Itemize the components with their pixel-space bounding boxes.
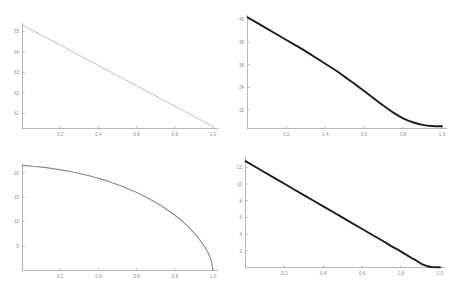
- x-tick-label: 0.8: [400, 132, 407, 137]
- y-tick-label: 10: [237, 182, 243, 187]
- y-ticks-bottom-right: 2 4 6 8 10 12: [237, 165, 248, 254]
- x-tick-label: 0.6: [133, 132, 140, 137]
- x-tick-label: 0.4: [95, 132, 102, 137]
- y-tick-label: 8: [239, 199, 242, 204]
- y-tick-label: 61: [14, 111, 20, 116]
- y-tick-label: 40: [239, 17, 245, 22]
- y-tick-label: 12: [237, 165, 243, 170]
- axes-bottom-right: [245, 157, 445, 268]
- axes-bottom-left: [22, 163, 218, 271]
- y-tick-label: 6: [239, 215, 242, 220]
- y-tick-label: 10: [14, 219, 20, 224]
- x-tick-label: 0.2: [57, 132, 64, 137]
- plot-svg-bottom-right: 0.2 0.4 0.6 0.8 1.0 2 4 6 8 10 12: [227, 145, 453, 289]
- y-ticks-top-right: 32 34 36 38 40: [239, 17, 250, 112]
- x-tick-label: 0.6: [133, 274, 140, 279]
- x-ticks-bottom-right: 0.2 0.4 0.6 0.8 1.0: [281, 265, 443, 276]
- x-tick-label: 0.4: [95, 274, 102, 279]
- x-tick-label: 0.8: [172, 132, 179, 137]
- plot-svg-top-right: 0.2 0.4 0.6 0.8 1.0 32 34 36 38 40: [227, 0, 453, 145]
- chart-panel-top-right: 0.2 0.4 0.6 0.8 1.0 32 34 36 38 40: [227, 0, 453, 145]
- y-tick-label: 5: [16, 244, 19, 249]
- x-tick-label: 1.0: [210, 132, 217, 137]
- x-tick-label: 0.8: [398, 271, 405, 276]
- x-ticks-top-left: 0.2 0.4 0.6 0.8 1.0: [57, 126, 217, 137]
- chart-panel-top-left: 0.2 0.4 0.6 0.8 1.0 61 62 63 64 65: [0, 0, 227, 145]
- plot-svg-top-left: 0.2 0.4 0.6 0.8 1.0 61 62 63 64 65: [0, 0, 227, 145]
- y-ticks-bottom-left: 5 10 15 20: [14, 171, 25, 249]
- y-tick-label: 36: [239, 63, 245, 68]
- y-tick-label: 65: [14, 29, 20, 34]
- x-ticks-bottom-left: 0.2 0.4 0.6 0.8 1.0: [57, 268, 217, 279]
- y-tick-label: 34: [239, 85, 245, 90]
- x-ticks-top-right: 0.2 0.4 0.6 0.8 1.0: [283, 126, 445, 137]
- x-tick-label: 0.8: [172, 274, 179, 279]
- x-tick-label: 0.4: [320, 271, 327, 276]
- x-tick-label: 0.6: [361, 132, 368, 137]
- y-tick-label: 63: [14, 70, 20, 75]
- y-tick-label: 20: [14, 171, 20, 176]
- x-tick-label: 1.0: [437, 271, 444, 276]
- x-tick-label: 0.2: [283, 132, 290, 137]
- x-tick-label: 1.0: [439, 132, 446, 137]
- chart-panel-bottom-left: 0.2 0.4 0.6 0.8 1.0 5 10 15 20: [0, 145, 227, 289]
- data-curve-bottom-right: [246, 161, 441, 267]
- y-tick-label: 15: [14, 195, 20, 200]
- axes-top-right: [247, 15, 447, 129]
- x-tick-label: 0.6: [359, 271, 366, 276]
- y-tick-label: 62: [14, 91, 20, 96]
- data-curve-top-left: [23, 25, 214, 126]
- data-curve-top-right: [248, 17, 443, 126]
- plot-svg-bottom-left: 0.2 0.4 0.6 0.8 1.0 5 10 15 20: [0, 145, 227, 289]
- chart-panel-bottom-right: 0.2 0.4 0.6 0.8 1.0 2 4 6 8 10 12: [227, 145, 453, 289]
- y-tick-label: 4: [239, 232, 242, 237]
- x-tick-label: 0.4: [322, 132, 329, 137]
- y-ticks-top-left: 61 62 63 64 65: [14, 29, 25, 116]
- x-tick-label: 0.2: [57, 274, 64, 279]
- x-tick-label: 1.0: [210, 274, 217, 279]
- y-tick-label: 38: [239, 40, 245, 45]
- x-tick-label: 0.2: [281, 271, 288, 276]
- y-tick-label: 64: [14, 50, 20, 55]
- figure-grid: 0.2 0.4 0.6 0.8 1.0 61 62 63 64 65: [0, 0, 453, 289]
- y-tick-label: 32: [239, 108, 245, 113]
- data-curve-bottom-left: [23, 165, 214, 270]
- y-tick-label: 2: [239, 249, 242, 254]
